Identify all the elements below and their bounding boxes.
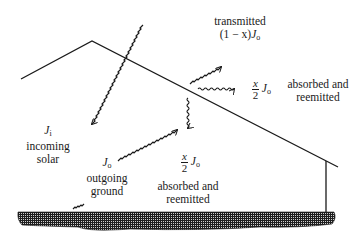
outgoing-ground-label: Jo outgoing ground bbox=[82, 156, 132, 198]
outgoing-ground-ray-lower bbox=[73, 204, 84, 209]
transmitted-formula: (1 − x)Jo bbox=[205, 28, 275, 44]
absorbed-right-text: absorbed and reemitted bbox=[280, 78, 356, 104]
ground bbox=[18, 212, 335, 230]
transmitted-ray bbox=[190, 67, 221, 84]
transmitted-label: transmitted (1 − x)Jo bbox=[205, 15, 275, 44]
reemitted-right-ray bbox=[198, 88, 234, 90]
incoming-solar-ray bbox=[92, 25, 143, 124]
transmitted-text: transmitted bbox=[205, 15, 275, 28]
incoming-solar-label: Ji incoming solar bbox=[18, 124, 78, 166]
reemitted-down-ray bbox=[187, 98, 189, 128]
absorbed-right-formula: x2 Jo bbox=[252, 78, 271, 101]
absorbed-down-formula: x2 Jo bbox=[181, 151, 200, 174]
absorbed-down-text: absorbed and reemitted bbox=[150, 180, 226, 206]
